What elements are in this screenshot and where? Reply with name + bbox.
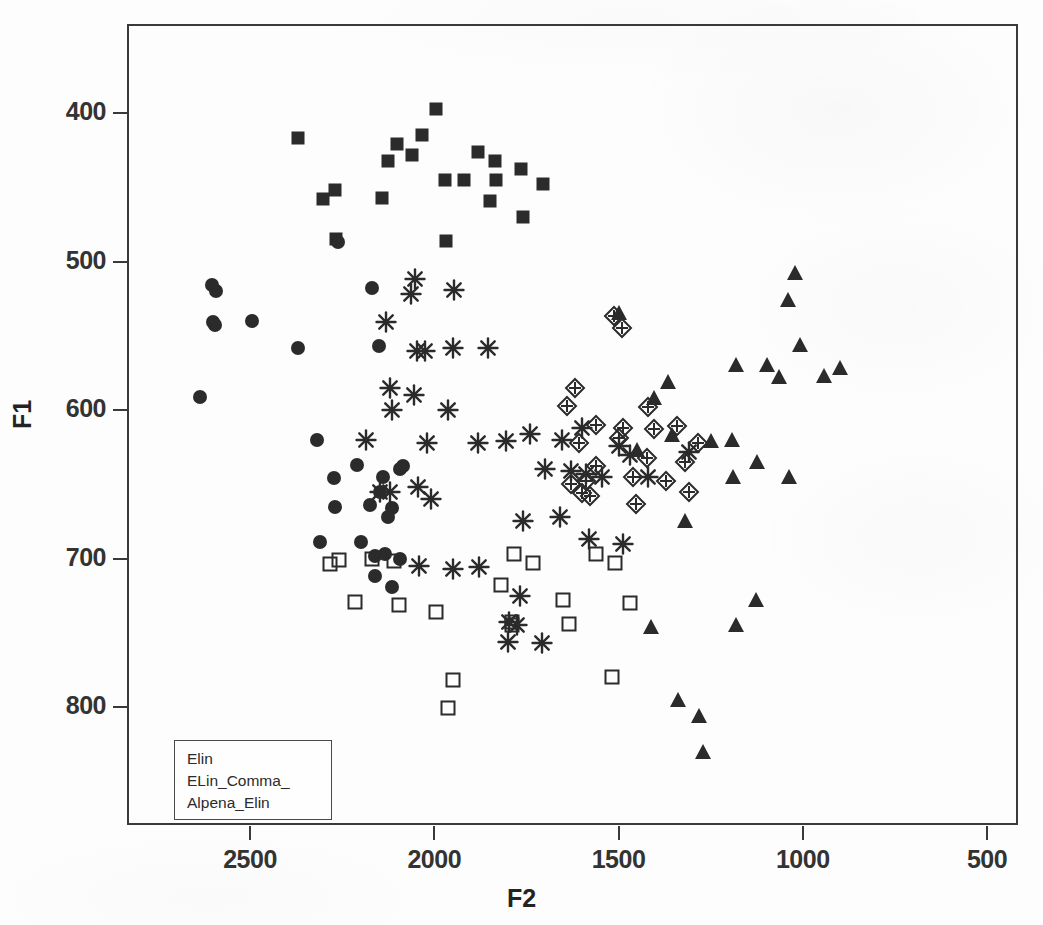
data-point-filled-square bbox=[479, 190, 501, 212]
data-point-open-square bbox=[361, 548, 383, 570]
data-point-asterisk bbox=[467, 432, 489, 454]
chart-page: 2500200015001000500 400500600700800 F2 F… bbox=[0, 0, 1043, 925]
data-point-filled-square bbox=[435, 230, 457, 252]
data-point-filled-triangle bbox=[778, 466, 800, 488]
data-point-asterisk bbox=[477, 337, 499, 359]
data-point-filled-triangle bbox=[789, 334, 811, 356]
data-point-filled-triangle bbox=[722, 466, 744, 488]
data-point-open-square bbox=[601, 666, 623, 688]
data-point-filled-triangle bbox=[608, 302, 630, 324]
data-point-asterisk bbox=[379, 481, 401, 503]
data-point-filled-triangle bbox=[674, 510, 696, 532]
data-point-filled-square bbox=[324, 179, 346, 201]
data-point-asterisk bbox=[400, 283, 422, 305]
x-tick-1000 bbox=[802, 826, 804, 840]
data-point-open-square bbox=[552, 589, 574, 611]
data-point-filled-triangle bbox=[692, 741, 714, 763]
data-point-diamond-cross bbox=[556, 395, 578, 417]
data-point-filled-triangle bbox=[700, 430, 722, 452]
data-point-filled-square bbox=[401, 144, 423, 166]
data-point-filled-triangle bbox=[725, 614, 747, 636]
data-point-open-square bbox=[522, 552, 544, 574]
data-point-filled-square bbox=[434, 169, 456, 191]
data-point-asterisk bbox=[442, 337, 464, 359]
data-point-filled-square bbox=[371, 187, 393, 209]
data-point-filled-triangle bbox=[784, 262, 806, 284]
data-point-filled-triangle bbox=[777, 289, 799, 311]
data-point-filled-circle bbox=[287, 337, 309, 359]
y-tick-700 bbox=[113, 558, 127, 560]
x-tick-label-500: 500 bbox=[932, 845, 1042, 874]
x-tick-label-2000: 2000 bbox=[379, 845, 489, 874]
data-point-asterisk bbox=[355, 429, 377, 451]
data-point-filled-circle bbox=[202, 311, 224, 333]
y-tick-500 bbox=[113, 261, 127, 263]
legend-box: Elin ELin_Comma_ Alpena_Elin bbox=[174, 740, 332, 820]
data-point-diamond-cross bbox=[579, 485, 601, 507]
data-point-filled-square bbox=[377, 150, 399, 172]
data-point-open-square bbox=[344, 591, 366, 613]
data-point-filled-circle bbox=[368, 335, 390, 357]
legend-item-1: ELin_Comma_ bbox=[187, 770, 331, 792]
data-point-diamond-cross bbox=[678, 481, 700, 503]
data-point-asterisk bbox=[414, 340, 436, 362]
data-point-diamond-cross bbox=[625, 493, 647, 515]
data-point-asterisk bbox=[375, 311, 397, 333]
data-point-filled-circle bbox=[377, 506, 399, 528]
y-tick-800 bbox=[113, 706, 127, 708]
data-point-open-square bbox=[558, 613, 580, 635]
y-tick-label-700: 700 bbox=[0, 543, 106, 572]
data-point-open-square bbox=[442, 669, 464, 691]
x-tick-2500 bbox=[249, 826, 251, 840]
data-point-asterisk bbox=[509, 585, 531, 607]
data-point-filled-circle bbox=[201, 274, 223, 296]
y-axis-title: F1 bbox=[8, 375, 37, 455]
data-point-asterisk bbox=[408, 555, 430, 577]
data-point-asterisk bbox=[468, 556, 490, 578]
x-tick-1500 bbox=[618, 826, 620, 840]
x-axis-title: F2 bbox=[0, 884, 1043, 913]
data-point-asterisk bbox=[420, 488, 442, 510]
data-point-open-square bbox=[619, 592, 641, 614]
data-point-asterisk bbox=[512, 510, 534, 532]
y-tick-label-500: 500 bbox=[0, 246, 106, 275]
data-point-open-square bbox=[425, 601, 447, 623]
data-point-filled-square bbox=[453, 169, 475, 191]
data-point-filled-triangle bbox=[829, 357, 851, 379]
data-point-filled-square bbox=[510, 158, 532, 180]
data-point-asterisk bbox=[442, 558, 464, 580]
data-point-filled-circle bbox=[324, 496, 346, 518]
x-tick-500 bbox=[986, 826, 988, 840]
data-point-filled-circle bbox=[392, 455, 414, 477]
data-point-filled-circle bbox=[361, 277, 383, 299]
data-point-diamond-cross bbox=[568, 432, 590, 454]
data-point-open-square bbox=[328, 549, 350, 571]
data-point-filled-triangle bbox=[768, 366, 790, 388]
data-point-asterisk bbox=[519, 423, 541, 445]
data-point-open-square bbox=[501, 614, 523, 636]
data-point-asterisk bbox=[549, 506, 571, 528]
data-point-filled-triangle bbox=[721, 429, 743, 451]
data-point-filled-triangle bbox=[725, 354, 747, 376]
x-tick-2000 bbox=[433, 826, 435, 840]
data-point-open-square bbox=[604, 552, 626, 574]
data-point-asterisk bbox=[534, 458, 556, 480]
data-point-filled-square bbox=[532, 173, 554, 195]
y-tick-400 bbox=[113, 112, 127, 114]
data-point-asterisk bbox=[416, 432, 438, 454]
data-point-asterisk bbox=[403, 384, 425, 406]
legend-item-0: Elin bbox=[187, 748, 331, 770]
data-point-filled-triangle bbox=[640, 616, 662, 638]
data-point-filled-triangle bbox=[661, 424, 683, 446]
x-tick-label-1500: 1500 bbox=[564, 845, 674, 874]
data-point-filled-triangle bbox=[626, 439, 648, 461]
data-point-filled-square bbox=[512, 206, 534, 228]
data-point-asterisk bbox=[495, 430, 517, 452]
data-point-open-square bbox=[383, 550, 405, 572]
y-tick-label-400: 400 bbox=[0, 97, 106, 126]
data-point-filled-square bbox=[485, 169, 507, 191]
data-point-filled-square bbox=[287, 127, 309, 149]
data-point-filled-circle bbox=[189, 386, 211, 408]
data-point-filled-circle bbox=[323, 467, 345, 489]
legend-item-2: Alpena_Elin bbox=[187, 792, 331, 814]
